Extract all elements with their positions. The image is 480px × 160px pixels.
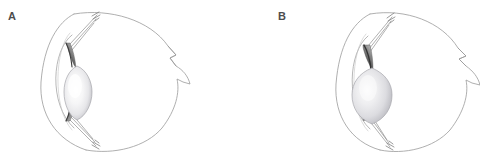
panel-a: A xyxy=(0,0,240,160)
zonular-fibers-inferior xyxy=(70,114,96,146)
panel-b: B xyxy=(240,0,480,160)
ciliary-body-superior xyxy=(363,45,373,70)
optic-nerve-notch xyxy=(168,46,176,66)
lens-highlight xyxy=(68,74,82,98)
eye-diagram-b xyxy=(240,0,480,160)
zonular-fibers-superior xyxy=(70,15,97,50)
zonule-tip-inferior xyxy=(386,141,394,150)
zonular-fibers-superior xyxy=(368,17,392,52)
lens-highlight xyxy=(359,75,377,101)
optic-nerve-notch xyxy=(458,48,466,66)
figure-container: A xyxy=(0,0,480,160)
zonule-tip-inferior xyxy=(92,140,100,149)
eye-diagram-a xyxy=(0,0,240,160)
globe-outline xyxy=(74,12,190,151)
